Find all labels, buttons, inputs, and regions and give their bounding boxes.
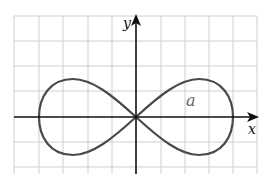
y-axis-label: y	[122, 15, 132, 31]
x-axis-label: x	[248, 121, 256, 137]
lemniscate-diagram: x y a	[0, 0, 272, 174]
y-axis	[131, 14, 141, 174]
curve-label: a	[186, 91, 196, 110]
